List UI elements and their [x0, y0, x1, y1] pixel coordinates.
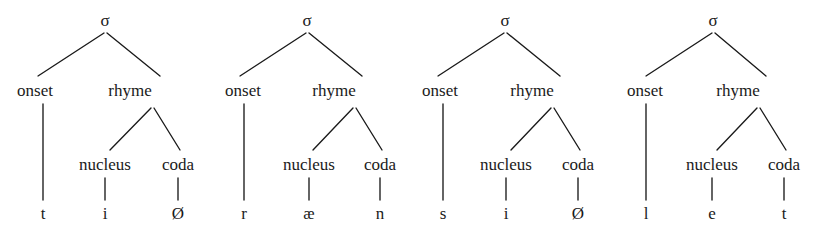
coda-segment-label: n: [376, 204, 385, 223]
rhyme-node-label: rhyme: [108, 81, 151, 100]
tree-4: σ onset rhyme nucleus coda l e t: [627, 11, 800, 223]
nucleus-segment-label: e: [708, 204, 716, 223]
onset-node-label: onset: [225, 81, 261, 100]
onset-node-label: onset: [17, 81, 53, 100]
tree-1: σ onset rhyme nucleus coda t i Ø: [17, 11, 194, 223]
nucleus-node-label: nucleus: [686, 155, 738, 174]
branch-sigma-to-onset: [240, 33, 306, 76]
branch-rhyme-to-nucleus: [717, 108, 757, 150]
branch-sigma-to-rhyme: [309, 33, 362, 76]
onset-segment-label: s: [440, 204, 447, 223]
nucleus-segment-label: i: [504, 204, 509, 223]
branch-rhyme-to-coda: [356, 108, 382, 150]
branch-sigma-to-rhyme: [715, 33, 766, 76]
coda-segment-label: t: [782, 204, 787, 223]
sigma-node-label: σ: [500, 11, 509, 30]
coda-node-label: coda: [364, 155, 397, 174]
nucleus-node-label: nucleus: [480, 155, 532, 174]
onset-segment-label: r: [241, 204, 247, 223]
nucleus-node-label: nucleus: [283, 155, 335, 174]
rhyme-node-label: rhyme: [510, 81, 553, 100]
syllable-tree-diagram: σ onset rhyme nucleus coda t i Ø σ onset…: [0, 0, 820, 233]
rhyme-node-label: rhyme: [716, 81, 759, 100]
branch-sigma-to-rhyme: [507, 33, 560, 76]
onset-segment-label: t: [41, 204, 46, 223]
nucleus-segment-label: i: [103, 204, 108, 223]
coda-node-label: coda: [562, 155, 595, 174]
branch-rhyme-to-nucleus: [511, 108, 551, 150]
onset-segment-label: l: [644, 204, 649, 223]
sigma-node-label: σ: [708, 11, 717, 30]
branch-sigma-to-onset: [438, 33, 504, 76]
coda-segment-label: Ø: [172, 204, 184, 223]
coda-node-label: coda: [768, 155, 801, 174]
trees-svg-canvas: σ onset rhyme nucleus coda t i Ø σ onset…: [0, 0, 820, 233]
tree-2: σ onset rhyme nucleus coda r æ n: [225, 11, 396, 223]
branch-rhyme-to-coda: [554, 108, 580, 150]
branch-rhyme-to-coda: [760, 108, 786, 150]
nucleus-segment-label: æ: [303, 204, 314, 223]
sigma-node-label: σ: [100, 11, 109, 30]
rhyme-node-label: rhyme: [312, 81, 355, 100]
tree-3: σ onset rhyme nucleus coda s i Ø: [422, 11, 594, 223]
onset-node-label: onset: [627, 81, 663, 100]
branch-sigma-to-onset: [38, 33, 104, 76]
branch-rhyme-to-nucleus: [110, 108, 151, 150]
nucleus-node-label: nucleus: [79, 155, 131, 174]
onset-node-label: onset: [422, 81, 458, 100]
branch-rhyme-to-coda: [154, 108, 180, 150]
coda-node-label: coda: [162, 155, 195, 174]
branch-sigma-to-onset: [646, 33, 712, 76]
coda-segment-label: Ø: [572, 204, 584, 223]
branch-sigma-to-rhyme: [107, 33, 160, 76]
branch-rhyme-to-nucleus: [313, 108, 353, 150]
sigma-node-label: σ: [302, 11, 311, 30]
